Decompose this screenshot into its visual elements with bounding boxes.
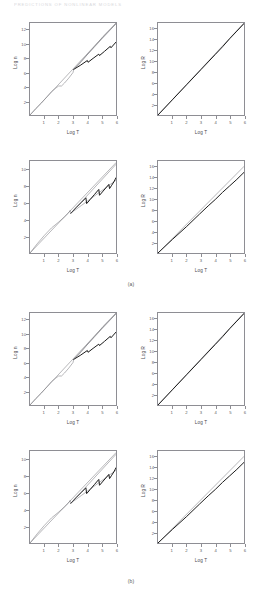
x-axis-title: Log T bbox=[29, 268, 117, 273]
x-tick-label: 6 bbox=[244, 548, 246, 553]
x-tick-label: 1 bbox=[42, 548, 44, 553]
x-tick-mark bbox=[73, 116, 74, 119]
y-tick-label: 10 bbox=[14, 166, 26, 171]
x-tick-label: 1 bbox=[42, 410, 44, 415]
y-tick-mark bbox=[154, 105, 157, 106]
plot-panel-r4c1: 123456246810Log TLog n bbox=[6, 442, 124, 570]
series-reference-line bbox=[158, 166, 244, 253]
x-tick-label: 3 bbox=[200, 410, 202, 415]
y-tick-mark bbox=[154, 395, 157, 396]
x-tick-mark bbox=[117, 116, 118, 119]
y-tick-label: 4 bbox=[142, 91, 154, 96]
x-axis-title: Log T bbox=[157, 420, 245, 425]
plot-canvas bbox=[30, 313, 116, 405]
y-tick-label: 4 bbox=[142, 519, 154, 524]
plot-frame bbox=[157, 312, 245, 406]
x-tick-mark bbox=[216, 544, 217, 547]
y-tick-mark bbox=[26, 203, 29, 204]
y-tick-mark bbox=[26, 348, 29, 349]
y-tick-mark bbox=[26, 510, 29, 511]
y-tick-mark bbox=[154, 94, 157, 95]
y-tick-mark bbox=[154, 177, 157, 178]
x-tick-label: 4 bbox=[86, 410, 88, 415]
x-tick-label: 1 bbox=[170, 410, 172, 415]
y-tick-mark bbox=[26, 186, 29, 187]
x-tick-label: 4 bbox=[214, 120, 216, 125]
x-tick-label: 5 bbox=[229, 548, 231, 553]
x-tick-mark bbox=[245, 254, 246, 257]
x-tick-label: 4 bbox=[86, 120, 88, 125]
y-tick-mark bbox=[26, 392, 29, 393]
x-tick-mark bbox=[230, 116, 231, 119]
x-tick-mark bbox=[88, 406, 89, 409]
x-tick-label: 1 bbox=[170, 120, 172, 125]
x-tick-label: 6 bbox=[116, 258, 118, 263]
y-tick-mark bbox=[154, 243, 157, 244]
plot-panel-r3c1: 12345624681012Log TLog n bbox=[6, 304, 124, 432]
plot-panel-r1c1: 12345624681012Log TLog n bbox=[6, 14, 124, 142]
x-tick-label: 2 bbox=[185, 258, 187, 263]
x-tick-mark bbox=[245, 544, 246, 547]
x-tick-mark bbox=[201, 116, 202, 119]
x-tick-label: 5 bbox=[101, 258, 103, 263]
plot-panel-r1c2: 123456246810121416Log TLog R bbox=[134, 14, 252, 142]
x-tick-label: 3 bbox=[72, 258, 74, 263]
x-tick-mark bbox=[230, 406, 231, 409]
x-axis-title: Log T bbox=[157, 130, 245, 135]
x-tick-mark bbox=[216, 406, 217, 409]
plot-panel-r2c2: 123456246810121416Log TLog R bbox=[134, 152, 252, 280]
x-tick-mark bbox=[58, 544, 59, 547]
y-tick-mark bbox=[26, 169, 29, 170]
x-tick-label: 2 bbox=[185, 410, 187, 415]
y-tick-mark bbox=[26, 102, 29, 103]
y-tick-mark bbox=[154, 373, 157, 374]
y-tick-mark bbox=[154, 28, 157, 29]
y-axis-title: Log n bbox=[13, 333, 18, 373]
y-tick-label: 16 bbox=[142, 315, 154, 320]
x-tick-label: 4 bbox=[214, 548, 216, 553]
y-tick-mark bbox=[154, 329, 157, 330]
x-tick-mark bbox=[117, 406, 118, 409]
plot-panel-r4c2: 123456246810121416Log TLog R bbox=[134, 442, 252, 570]
series-trajectory bbox=[158, 24, 244, 115]
y-tick-mark bbox=[154, 61, 157, 62]
x-axis-title: Log T bbox=[157, 268, 245, 273]
y-tick-mark bbox=[26, 73, 29, 74]
y-tick-mark bbox=[154, 72, 157, 73]
x-tick-mark bbox=[172, 254, 173, 257]
y-tick-label: 2 bbox=[14, 99, 26, 104]
y-tick-label: 16 bbox=[142, 25, 154, 30]
y-tick-mark bbox=[26, 44, 29, 45]
series-envelope-upper bbox=[30, 163, 116, 253]
x-tick-mark bbox=[117, 544, 118, 547]
plot-frame bbox=[29, 312, 117, 406]
x-tick-label: 5 bbox=[229, 410, 231, 415]
x-tick-mark bbox=[102, 544, 103, 547]
x-tick-label: 1 bbox=[42, 120, 44, 125]
y-tick-mark bbox=[26, 29, 29, 30]
y-tick-label: 14 bbox=[142, 464, 154, 469]
x-tick-label: 5 bbox=[101, 120, 103, 125]
x-tick-mark bbox=[44, 254, 45, 257]
plot-canvas bbox=[158, 161, 244, 253]
series-reference-line bbox=[158, 456, 244, 543]
y-axis-title: Log n bbox=[13, 43, 18, 83]
plot-canvas bbox=[30, 161, 116, 253]
y-tick-label: 4 bbox=[14, 85, 26, 90]
y-tick-label: 2 bbox=[142, 392, 154, 397]
y-tick-mark bbox=[26, 319, 29, 320]
x-tick-mark bbox=[186, 544, 187, 547]
x-tick-label: 5 bbox=[229, 120, 231, 125]
x-tick-label: 3 bbox=[72, 548, 74, 553]
plot-frame bbox=[157, 160, 245, 254]
y-tick-mark bbox=[154, 362, 157, 363]
plot-canvas bbox=[30, 23, 116, 115]
x-tick-label: 2 bbox=[185, 120, 187, 125]
series-trajectory bbox=[158, 314, 244, 405]
y-tick-label: 16 bbox=[142, 163, 154, 168]
x-tick-mark bbox=[201, 254, 202, 257]
plot-frame bbox=[157, 22, 245, 116]
y-tick-mark bbox=[154, 340, 157, 341]
y-tick-label: 2 bbox=[142, 102, 154, 107]
x-tick-label: 2 bbox=[57, 258, 59, 263]
